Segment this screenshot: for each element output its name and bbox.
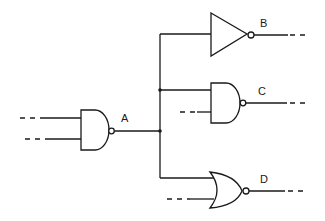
- logic-circuit-diagram: A B C D: [0, 0, 325, 221]
- output-bus: [158, 34, 162, 178]
- gate-a-nand: A: [81, 110, 160, 150]
- gate-c-label: C: [258, 85, 266, 97]
- gate-b-label: B: [260, 17, 267, 29]
- gate-a-label: A: [121, 112, 129, 124]
- gate-d-label: D: [260, 173, 268, 185]
- gate-c-nand: C: [160, 83, 310, 123]
- gate-a-inputs: [20, 118, 81, 139]
- gate-d-nor: D: [160, 172, 306, 208]
- gate-b-not: B: [160, 13, 308, 56]
- junction-dot: [158, 129, 162, 133]
